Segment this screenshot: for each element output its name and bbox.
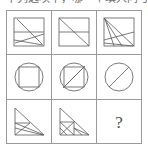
cell-row1-col3 [104, 18, 134, 46]
cell-row2-col1 [15, 63, 43, 91]
cell-row3-col2 [60, 108, 89, 135]
cell-row2-col2 [60, 63, 88, 91]
puzzle-page: 下列选项中，哪一个填入问号处最合适 [0, 0, 148, 156]
cell-row3-col1 [15, 108, 44, 135]
matrix-svg: ? [6, 10, 142, 144]
caption-clipped-region: 下列选项中，哪一个填入问号处最合适 [0, 0, 148, 7]
question-mark-label: ? [115, 113, 123, 132]
caption-text: 下列选项中，哪一个填入问号处最合适 [6, 0, 148, 5]
figure-reasoning-matrix: ? [6, 10, 142, 144]
cell-row1-col1 [14, 18, 44, 46]
cell-row1-col2 [59, 18, 89, 46]
cell-row3-col3: ? [115, 113, 123, 132]
cell-row2-col3 [105, 63, 133, 91]
